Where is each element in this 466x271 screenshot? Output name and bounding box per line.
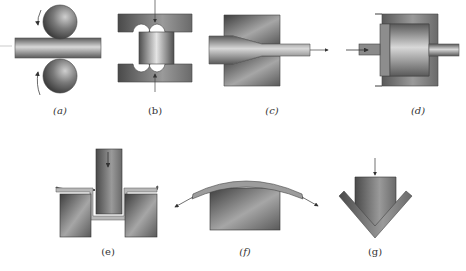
rotation-arrow-bottom-icon <box>37 72 40 95</box>
figure-canvas: (a) (b) (c) (d) (e) (f) (g) <box>0 0 466 271</box>
billet <box>390 24 429 76</box>
label-f: (f) <box>239 246 251 257</box>
punch-wedge <box>355 177 396 232</box>
rotation-arrow-top-icon <box>38 10 41 25</box>
lower-roll <box>43 59 77 93</box>
label-b: (b) <box>148 105 162 116</box>
panel-b-forging <box>118 0 192 92</box>
workpiece-slab <box>15 38 101 58</box>
right-die <box>125 194 157 237</box>
punch <box>96 149 122 214</box>
left-die <box>60 194 91 237</box>
cut-off-caption <box>0 265 466 271</box>
panel-g-bending <box>339 158 412 238</box>
ram-plate <box>380 24 390 76</box>
panel-d-extrusion <box>346 14 459 86</box>
label-e: (e) <box>101 246 115 257</box>
panel-a-rolling <box>0 5 101 95</box>
panel-c-drawing <box>209 15 328 86</box>
panel-f-stretch-forming <box>175 181 318 230</box>
label-d: (d) <box>411 105 425 116</box>
upper-roll <box>43 5 77 39</box>
form-block <box>210 188 280 230</box>
pull-left-arrow-icon <box>175 197 193 207</box>
panel-e-punching <box>56 149 157 237</box>
label-a: (a) <box>53 105 67 116</box>
ram-stem <box>359 44 380 55</box>
diagram-svg <box>0 0 466 271</box>
pull-right-arrow-icon <box>302 197 318 206</box>
label-c: (c) <box>265 105 278 116</box>
billet <box>139 32 174 64</box>
extrudate <box>429 44 459 56</box>
label-g: (g) <box>368 246 382 257</box>
